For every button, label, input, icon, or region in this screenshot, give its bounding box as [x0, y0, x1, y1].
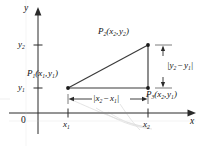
dx-close-bar: | [117, 93, 119, 103]
origin-label: 0 [21, 116, 26, 126]
horizontal-measure-label: |x2 − x1| [93, 94, 119, 103]
vertex-dot-p1 [66, 86, 70, 90]
x-tick-label-x2-sub: 2 [147, 124, 150, 130]
y-tick-label-y1-sub: 1 [22, 87, 25, 93]
p2-coord-y-sub: 2 [123, 31, 126, 37]
point-label-p3: P3(x2, y1) [146, 90, 177, 99]
y-tick-label-y2: y2 [18, 40, 25, 49]
p2-coord-x-sub: 2 [113, 31, 116, 37]
y-tick-label-y2-sub: 2 [22, 44, 25, 50]
p3-coord-x-sub: 2 [161, 94, 164, 100]
point-label-p2: P2(x2, y2) [98, 27, 129, 36]
x-tick-label-x1-sub: 1 [67, 124, 70, 130]
vertex-dot-p2 [146, 43, 150, 47]
dx-a-sub: 2 [99, 98, 102, 104]
p3-coord-y-sub: 1 [171, 94, 174, 100]
distance-formula-figure: y x 0 y2 y1 x1 x2 P1(x1, y1) P2(x2, y2) … [0, 0, 207, 146]
x-tick-label-x1: x1 [63, 120, 70, 129]
point-label-p1: P1(x1, y1) [27, 69, 58, 78]
x-tick-label-x2: x2 [143, 120, 150, 129]
right-triangle [68, 45, 148, 88]
x-axis-label: x [190, 117, 194, 127]
dy-a-sub: 2 [173, 65, 176, 71]
p1-coord-x-sub: 1 [42, 73, 45, 79]
vertical-measure-label: |y2 − y1| [167, 61, 193, 70]
point-label-p2-coords: (x2, y2) [106, 26, 129, 36]
point-label-p1-coords: (x1, y1) [35, 68, 58, 78]
point-label-p3-coords: (x2, y1) [154, 89, 177, 99]
dx-minus: − [103, 93, 109, 103]
dy-minus: − [177, 60, 183, 70]
p1-coord-y-sub: 1 [52, 73, 55, 79]
y-axis-label: y [24, 4, 28, 14]
dy-close-bar: | [191, 60, 193, 70]
y-tick-label-y1: y1 [18, 83, 25, 92]
